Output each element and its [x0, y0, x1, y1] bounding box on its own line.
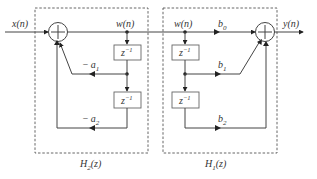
h1-adder — [256, 23, 275, 42]
h2-a1-arrow — [89, 71, 95, 77]
h2-a1-diag — [60, 43, 72, 74]
coef-b0: b0 — [218, 18, 227, 32]
input-label: x(n) — [11, 18, 29, 30]
h2-label: H2(z) — [79, 158, 102, 172]
block-diagram: x(n) w(n) z−1 −a1 z−1 −a2 H2(z) w(n) b0 … — [0, 0, 317, 179]
b0-arrow — [214, 29, 220, 35]
coef-minus-a2: −a2 — [82, 113, 100, 127]
h2-a2-arrow — [89, 125, 95, 131]
coef-b1: b1 — [218, 59, 227, 73]
h1-b1-arrow — [215, 71, 221, 77]
output-label: y(n) — [282, 18, 300, 30]
coef-b2: b2 — [218, 113, 227, 127]
h2-node-label: w(n) — [116, 18, 135, 30]
h2-adder — [49, 23, 68, 42]
h1-subsystem-box — [163, 8, 277, 153]
h2-subsystem-box — [35, 8, 148, 153]
h1-b2-arrow — [215, 125, 221, 131]
h1-label: H1(z) — [204, 158, 227, 172]
h1-node-label: w(n) — [174, 18, 193, 30]
coef-minus-a1: −a1 — [82, 59, 99, 73]
